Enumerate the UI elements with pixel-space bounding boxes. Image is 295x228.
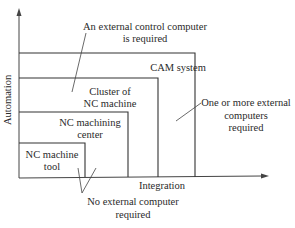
x-axis-arrow-icon bbox=[261, 174, 269, 179]
x-axis-label: Integration bbox=[132, 180, 192, 192]
label-cam-system: CAM system bbox=[148, 62, 208, 74]
x-axis bbox=[19, 174, 269, 179]
annotation-no-external-line2: required bbox=[78, 209, 188, 221]
y-axis-label: Automation bbox=[2, 75, 13, 125]
label-nc-machine-tool-line2: tool bbox=[18, 161, 86, 173]
annotation-no-external-line1: No external computer bbox=[78, 196, 188, 208]
label-cluster-line1: Cluster of bbox=[70, 86, 150, 98]
annotation-one-or-more-line3: required bbox=[198, 122, 294, 134]
label-nc-machining-center-line2: center bbox=[50, 129, 130, 141]
annotation-one-or-more-line2: computers bbox=[198, 110, 294, 122]
annotation-one-or-more-line1: One or more external bbox=[198, 97, 294, 109]
label-nc-machining-center-line1: NC machining bbox=[50, 117, 130, 129]
y-axis-arrow-icon bbox=[17, 8, 22, 16]
annotation-external-control-line2: is required bbox=[75, 33, 215, 45]
automation-integration-diagram: Automation Integration CAM system Cluste… bbox=[0, 0, 295, 228]
label-cluster-line2: NC machine bbox=[70, 98, 150, 110]
label-nc-machine-tool-line1: NC machine bbox=[18, 149, 86, 161]
annotation-external-control-line1: An external control computer bbox=[75, 21, 215, 33]
